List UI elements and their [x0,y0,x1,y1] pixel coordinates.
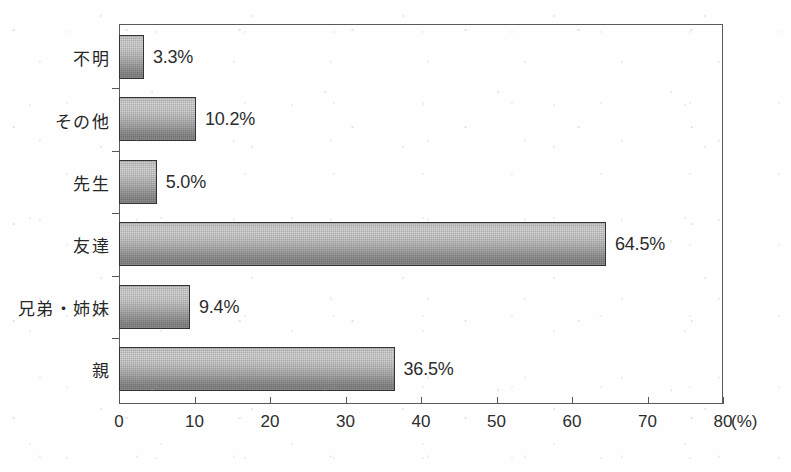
bar-tomodachi [119,222,606,266]
bar-sensei [119,160,157,204]
x-axis-tick [119,397,120,404]
x-axis-tick-label: 0 [114,412,123,432]
y-axis-tick [112,213,119,214]
category-label-0: 不明 [0,45,110,70]
y-axis-tick [112,338,119,339]
bar-chart: 不明 その他 先生 友達 兄弟・姉妹 親 3.3% 10.2% 5.0% 64.… [0,0,791,472]
category-label-3: 友達 [0,232,110,257]
bar-fumei [119,35,144,79]
bar-sonota [119,97,196,141]
x-axis-tick [572,397,573,404]
x-axis-tick-label: 20 [261,412,280,432]
bar-value-0: 3.3% [153,47,193,68]
bar-value-4: 9.4% [199,297,239,318]
category-label-5: 親 [0,357,110,382]
y-axis-tick [112,88,119,89]
bar-value-1: 10.2% [205,109,255,130]
x-axis-tick-label: 10 [185,412,204,432]
bar-value-3: 64.5% [615,234,665,255]
x-axis-tick-label: 30 [336,412,355,432]
x-axis-tick [270,397,271,404]
y-axis-tick [112,276,119,277]
x-axis-tick-label: 70 [638,412,657,432]
x-axis-tick [346,397,347,404]
x-axis-tick-label: 80 [714,412,733,432]
x-axis-unit-label: (%) [731,412,757,432]
category-label-1: その他 [0,108,110,133]
category-label-2: 先生 [0,170,110,195]
x-axis-tick [723,397,724,404]
x-axis-tick-label: 50 [487,412,506,432]
bar-kyoudai-shimai [119,285,190,329]
bar-value-5: 36.5% [404,359,454,380]
x-axis-tick-label: 40 [412,412,431,432]
x-axis-tick [648,397,649,404]
category-label-4: 兄弟・姉妹 [0,295,110,320]
x-axis-tick-label: 60 [563,412,582,432]
bar-oya [119,347,395,391]
x-axis-tick [421,397,422,404]
y-axis-tick [112,151,119,152]
x-axis-tick [195,397,196,404]
x-axis-tick [497,397,498,404]
bar-value-2: 5.0% [166,172,206,193]
